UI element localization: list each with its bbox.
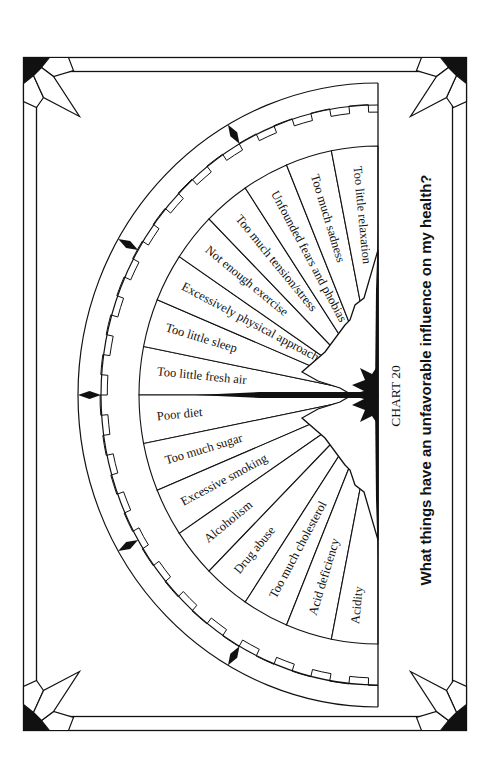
corner-ornament-top-right <box>411 58 467 117</box>
diamond-marker <box>228 125 240 144</box>
chart-title: What things have an unfavorable influenc… <box>417 175 434 586</box>
corner-ornament-bottom-right <box>411 672 467 731</box>
corner-ornament-top-left <box>24 58 80 117</box>
diamond-marker <box>228 646 240 665</box>
diamond-marker <box>78 391 101 399</box>
chart-canvas: Too little fresh airToo little sleepExce… <box>0 0 493 759</box>
corner-ornament-bottom-left <box>24 672 80 731</box>
chart-number-label: CHART 20 <box>388 365 403 427</box>
diamond-marker <box>118 540 138 551</box>
diamond-marker <box>118 239 138 250</box>
